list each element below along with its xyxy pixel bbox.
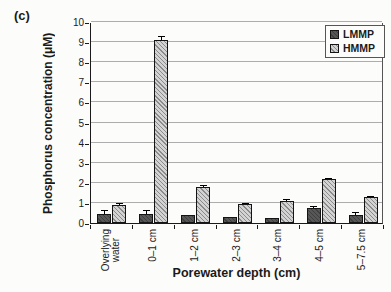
- legend-swatch-hmmp-icon: [330, 44, 339, 53]
- bar-lmmp-5: [307, 208, 321, 223]
- bar-lmmp-0: [97, 214, 111, 223]
- figure-panel: (c) Phosphorus concentration (μM) Overly…: [0, 0, 391, 292]
- x-tick-label-6: 5–7.5 cm: [357, 229, 367, 270]
- x-tick-label-4: 3–4 cm: [273, 229, 283, 262]
- gridline: [91, 21, 382, 22]
- error-bar-cap: [200, 185, 207, 186]
- y-tick-label: 9: [62, 38, 84, 48]
- error-bar-cap: [101, 210, 108, 211]
- x-tick-mark: [90, 225, 91, 229]
- y-tick-mark: [85, 224, 89, 225]
- legend-label-lmmp: LMMP: [343, 29, 374, 40]
- x-tick-mark: [174, 225, 175, 229]
- error-bar-cap: [367, 196, 374, 197]
- error-bar-cap: [242, 203, 249, 204]
- x-tick-label-1: 0–1 cm: [148, 229, 158, 262]
- y-tick-label: 6: [62, 98, 84, 108]
- error-bar: [101, 210, 108, 214]
- y-tick-label: 2: [62, 179, 84, 189]
- error-bar: [143, 210, 150, 214]
- bar-lmmp-3: [223, 217, 237, 223]
- legend-swatch-lmmp-icon: [330, 30, 339, 39]
- error-bar-cap: [352, 212, 359, 213]
- y-tick-mark: [85, 144, 89, 145]
- y-tick-label: 10: [62, 18, 84, 28]
- y-tick-mark: [85, 43, 89, 44]
- legend-entry-hmmp: HMMP: [330, 43, 380, 54]
- bar-hmmp-5: [322, 179, 336, 223]
- y-tick-mark: [85, 23, 89, 24]
- error-bar-cap: [116, 203, 123, 204]
- y-tick-label: 4: [62, 139, 84, 149]
- y-tick-mark: [85, 164, 89, 165]
- gridline: [91, 142, 382, 143]
- bar-lmmp-4: [265, 218, 279, 223]
- error-bar-cap: [310, 206, 317, 207]
- y-tick-label: 5: [62, 119, 84, 129]
- error-bar: [283, 199, 290, 201]
- error-bar: [200, 185, 207, 186]
- y-tick-label: 1: [62, 199, 84, 209]
- y-tick-mark: [85, 83, 89, 84]
- bar-hmmp-1: [154, 40, 168, 223]
- error-bar-cap: [325, 178, 332, 179]
- x-tick-mark: [132, 225, 133, 229]
- bar-hmmp-6: [364, 197, 378, 223]
- bar-hmmp-0: [112, 205, 126, 223]
- error-bar: [325, 178, 332, 179]
- x-axis-title: Porewater depth (cm): [90, 266, 383, 280]
- bar-hmmp-3: [238, 204, 252, 223]
- error-bar-cap: [143, 210, 150, 211]
- error-bar: [158, 36, 165, 40]
- figure-label: (c): [14, 8, 30, 23]
- y-axis-title: Phosphorus concentration (μM): [40, 23, 56, 224]
- bar-lmmp-2: [181, 215, 195, 223]
- x-tick-label-0: Overlying water: [101, 229, 121, 271]
- y-tick-label: 0: [62, 219, 84, 229]
- x-tick-mark: [383, 225, 384, 229]
- x-tick-mark: [341, 225, 342, 229]
- y-tick-mark: [85, 204, 89, 205]
- legend-entry-lmmp: LMMP: [330, 29, 380, 40]
- error-bar: [116, 203, 123, 205]
- gridline: [91, 81, 382, 82]
- gridline: [91, 61, 382, 62]
- bar-hmmp-4: [280, 201, 294, 223]
- bar-lmmp-6: [349, 215, 363, 223]
- x-tick-mark: [299, 225, 300, 229]
- gridline: [91, 162, 382, 163]
- y-tick-mark: [85, 63, 89, 64]
- x-tick-label-5: 4–5 cm: [315, 229, 325, 262]
- gridline: [91, 202, 382, 203]
- legend-label-hmmp: HMMP: [343, 43, 375, 54]
- gridline: [91, 182, 382, 183]
- error-bar-cap: [283, 199, 290, 200]
- bar-hmmp-2: [196, 187, 210, 223]
- error-bar: [310, 206, 317, 208]
- x-tick-label-3: 2–3 cm: [232, 229, 242, 262]
- y-tick-mark: [85, 124, 89, 125]
- bar-lmmp-1: [139, 214, 153, 223]
- gridline: [91, 122, 382, 123]
- y-tick-label: 7: [62, 78, 84, 88]
- x-tick-mark: [257, 225, 258, 229]
- error-bar: [242, 203, 249, 204]
- x-tick-mark: [216, 225, 217, 229]
- error-bar-cap: [158, 36, 165, 37]
- error-bar: [367, 196, 374, 197]
- error-bar: [352, 212, 359, 215]
- legend: LMMP HMMP: [325, 25, 385, 58]
- y-tick-label: 8: [62, 58, 84, 68]
- y-tick-mark: [85, 103, 89, 104]
- y-tick-mark: [85, 184, 89, 185]
- x-tick-label-2: 1–2 cm: [190, 229, 200, 262]
- y-tick-label: 3: [62, 159, 84, 169]
- gridline: [91, 101, 382, 102]
